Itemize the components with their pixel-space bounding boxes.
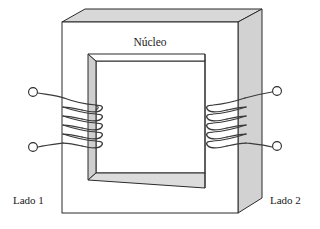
core-inner-window (96, 61, 205, 173)
coil-left-lead-bottom (38, 143, 63, 147)
transformer-core-diagram: Núcleo Lado 1 Lado 2 (0, 0, 320, 229)
coil-left-lead-top (38, 93, 64, 98)
core-window-inner-left-face (88, 54, 96, 180)
right-upper-terminal (273, 87, 282, 96)
left-lower-terminal (29, 143, 38, 152)
core-label: Núcleo (133, 36, 166, 48)
left-upper-terminal (29, 88, 38, 97)
core-right-side-face (238, 9, 262, 213)
core-top-face (62, 9, 262, 22)
core-window-inner-top-edge (88, 54, 205, 61)
right-lower-terminal (273, 142, 282, 151)
side-2-label: Lado 2 (270, 194, 301, 206)
side-1-label: Lado 1 (13, 194, 44, 206)
